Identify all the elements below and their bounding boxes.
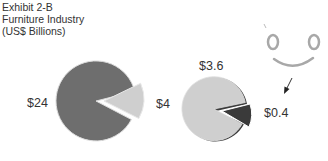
smiley-face-icon: [264, 24, 319, 66]
pie1-slice-label: $4: [156, 97, 170, 111]
pie2-main-label: $3.6: [199, 59, 223, 73]
pie1-main-label: $24: [27, 96, 48, 110]
pie-chart-1: [56, 61, 144, 141]
arrow-icon: [284, 78, 292, 94]
pie2-slice-label: $0.4: [264, 106, 288, 120]
pie-chart-2: [182, 77, 252, 142]
charts-canvas: [0, 0, 328, 161]
